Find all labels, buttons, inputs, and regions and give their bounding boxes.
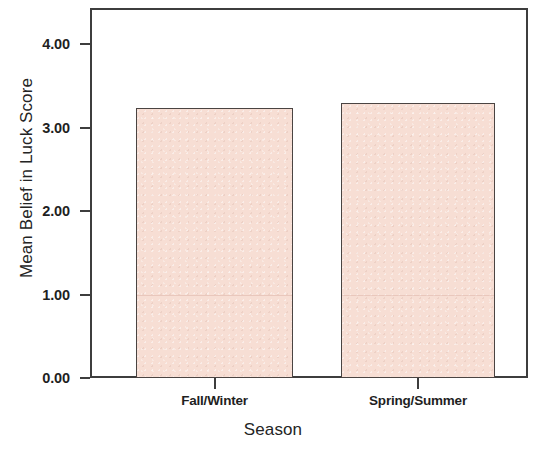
y-axis-tick (80, 43, 90, 45)
y-axis-tick-label: 4.00 (8, 37, 70, 52)
x-axis-tick (214, 378, 216, 389)
y-axis-tick (80, 294, 90, 296)
y-axis-tick-label: 3.00 (8, 121, 70, 136)
x-axis-tick-label: Fall/Winter (125, 394, 305, 408)
y-axis-tick-label: 2.00 (8, 204, 70, 219)
bar-2 (341, 103, 495, 378)
y-axis-tick-label: 0.00 (8, 371, 70, 386)
x-axis-tick-label: Spring/Summer (328, 394, 508, 408)
y-axis-tick (80, 127, 90, 129)
bar-scan-artifact (137, 295, 292, 296)
bar-texture (137, 109, 292, 377)
bar-texture (342, 104, 494, 377)
bar-chart: Mean Belief in Luck Score 0.001.002.003.… (0, 0, 546, 450)
y-axis-tick-label: 1.00 (8, 288, 70, 303)
x-axis-title: Season (0, 421, 546, 438)
x-axis-tick (417, 378, 419, 389)
bar-1 (136, 108, 293, 378)
bar-scan-artifact (342, 295, 494, 296)
y-axis-tick (80, 377, 90, 379)
y-axis-tick (80, 210, 90, 212)
